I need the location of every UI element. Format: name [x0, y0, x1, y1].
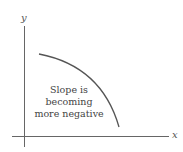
slope-diagram: y x Slope is becoming more negative	[0, 0, 183, 152]
annotation-line-3: more negative	[33, 108, 105, 120]
axes-and-curve	[0, 0, 183, 152]
annotation-line-2: becoming	[33, 96, 105, 108]
annotation-line-1: Slope is	[33, 84, 105, 96]
y-axis-label: y	[21, 13, 27, 23]
slope-annotation: Slope is becoming more negative	[33, 84, 105, 120]
x-axis-label: x	[172, 130, 178, 140]
